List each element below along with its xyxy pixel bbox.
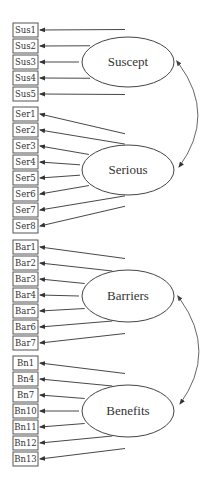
- loading-arrow: [40, 424, 85, 428]
- indicator-bar6: Bar6: [13, 320, 38, 334]
- factor-label: Serious: [109, 162, 148, 177]
- indicator-bn10: Bn10: [13, 404, 38, 418]
- indicator-bn11: Bn11: [13, 420, 38, 434]
- indicator-bar2: Bar2: [13, 256, 38, 270]
- factor-label: Barriers: [107, 288, 149, 303]
- loading-arrow: [40, 395, 85, 399]
- indicator-label: Ser8: [15, 221, 35, 231]
- indicator-sus4: Sus4: [13, 71, 38, 85]
- indicator-ser3: Ser3: [13, 139, 38, 153]
- loading-arrow: [40, 449, 125, 460]
- indicator-label: Ser4: [15, 157, 35, 167]
- indicator-ser4: Ser4: [13, 155, 38, 169]
- indicator-ser6: Ser6: [13, 187, 38, 201]
- indicator-boxes: Sus1Sus2Sus3Sus4Sus5Ser1Ser2Ser3Ser4Ser5…: [13, 23, 38, 466]
- factor-benefits: Benefits: [82, 385, 174, 437]
- loading-arrow: [40, 196, 125, 210]
- indicator-bn4: Bn4: [13, 372, 38, 386]
- indicator-label: Bn12: [14, 438, 37, 448]
- loading-arrow: [40, 379, 112, 386]
- indicator-bar5: Bar5: [13, 304, 38, 318]
- loading-arrow: [40, 279, 85, 284]
- indicator-ser7: Ser7: [13, 203, 38, 217]
- indicator-ser1: Ser1: [13, 107, 38, 121]
- loading-arrow: [40, 295, 79, 296]
- loading-arrow: [40, 363, 125, 374]
- indicator-label: Ser5: [15, 173, 35, 183]
- loading-arrow: [40, 436, 112, 443]
- indicator-sus2: Sus2: [13, 39, 38, 53]
- indicator-label: Sus3: [15, 57, 36, 67]
- factor-label: Suscept: [108, 54, 149, 69]
- indicator-label: Bar5: [15, 306, 36, 316]
- indicator-ser5: Ser5: [13, 171, 38, 185]
- indicator-label: Bar2: [15, 258, 36, 268]
- indicator-label: Sus2: [15, 41, 36, 51]
- loading-arrow: [40, 263, 112, 271]
- indicator-label: Ser2: [15, 125, 35, 135]
- indicator-label: Ser6: [15, 189, 35, 199]
- indicator-label: Sus4: [15, 73, 36, 83]
- loading-arrow: [40, 130, 125, 144]
- indicator-label: Bar6: [15, 322, 36, 332]
- indicator-label: Ser3: [15, 141, 35, 151]
- covariance-arrow-suscept-serious: [179, 64, 198, 167]
- indicator-label: Bn7: [17, 390, 34, 400]
- loading-arrow: [40, 186, 89, 194]
- indicator-label: Ser7: [15, 205, 35, 215]
- indicator-bar4: Bar4: [13, 288, 38, 302]
- indicator-label: Bar7: [15, 338, 36, 348]
- indicator-label: Bn13: [14, 454, 37, 464]
- loading-arrow: [40, 175, 80, 178]
- indicator-bar3: Bar3: [13, 272, 38, 286]
- loading-arrow: [40, 146, 89, 154]
- indicator-label: Bar1: [15, 242, 36, 252]
- indicator-bar7: Bar7: [13, 336, 38, 350]
- factor-barriers: Barriers: [82, 270, 174, 322]
- indicator-label: Ser1: [15, 109, 35, 119]
- sem-path-diagram: Sus1Sus2Sus3Sus4Sus5Ser1Ser2Ser3Ser4Ser5…: [0, 0, 219, 486]
- indicator-sus5: Sus5: [13, 87, 38, 101]
- factor-label: Benefits: [106, 403, 149, 418]
- indicator-bn1: Bn1: [13, 356, 38, 370]
- indicator-label: Bar3: [15, 274, 36, 284]
- indicator-label: Bn1: [17, 358, 34, 368]
- indicator-label: Bn10: [14, 406, 37, 416]
- indicator-bn12: Bn12: [13, 436, 38, 450]
- covariance-arrow-barriers-benefits: [180, 299, 199, 404]
- indicator-label: Sus1: [15, 25, 36, 35]
- indicator-label: Bn4: [17, 374, 34, 384]
- indicator-bn7: Bn7: [13, 388, 38, 402]
- indicator-label: Sus5: [15, 89, 36, 99]
- indicator-label: Bar4: [15, 290, 36, 300]
- loading-arrow: [40, 114, 125, 134]
- latent-factors: SusceptSeriousBarriersBenefits: [82, 37, 174, 437]
- loading-arrow: [40, 94, 125, 95]
- loading-arrow: [40, 309, 85, 312]
- indicator-bar1: Bar1: [13, 240, 38, 254]
- factor-suscept: Suscept: [82, 37, 174, 87]
- indicator-sus1: Sus1: [13, 23, 38, 37]
- covariance-arrows: [179, 64, 199, 404]
- loading-arrow: [40, 162, 80, 165]
- indicator-sus3: Sus3: [13, 55, 38, 69]
- indicator-label: Bn11: [14, 422, 37, 432]
- loading-arrow: [40, 30, 125, 31]
- loading-arrow: [40, 334, 125, 344]
- indicator-ser2: Ser2: [13, 123, 38, 137]
- loading-arrow: [40, 206, 125, 226]
- indicator-bn13: Bn13: [13, 452, 38, 466]
- factor-serious: Serious: [82, 145, 174, 195]
- indicator-ser8: Ser8: [13, 219, 38, 233]
- loading-arrow: [40, 321, 112, 327]
- loading-arrow: [40, 247, 125, 259]
